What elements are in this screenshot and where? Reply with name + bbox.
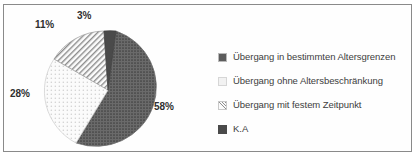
chart-legend: Übergang in bestimmten Altersgrenzen Übe…: [218, 45, 418, 153]
legend-label-0: Übergang in bestimmten Altersgrenzen: [233, 52, 395, 62]
legend-item-uebergang-festem-zeitpunkt: Übergang mit festem Zeitpunkt: [218, 93, 418, 117]
legend-item-uebergang-altersgrenzen: Übergang in bestimmten Altersgrenzen: [218, 45, 418, 69]
pie-svg: [38, 29, 178, 151]
pie-slices: [44, 31, 156, 147]
legend-label-2: Übergang mit festem Zeitpunkt: [233, 100, 361, 110]
pie-label-11: 11%: [35, 19, 54, 30]
legend-swatch-dark-dotted-icon: [218, 53, 227, 62]
legend-label-3: K.A: [233, 124, 248, 134]
pie-label-28: 28%: [10, 88, 30, 99]
pie-chart-area: 58% 28% 11% 3%: [4, 5, 209, 159]
legend-swatch-solid-icon: [218, 125, 227, 134]
chart-frame: 58% 28% 11% 3% Übergang in bestimmten Al…: [3, 4, 412, 152]
pie-graphic: [38, 29, 178, 151]
legend-swatch-hatch-icon: [218, 101, 227, 110]
legend-swatch-light-dotted-icon: [218, 77, 227, 86]
pie-label-3: 3%: [77, 10, 91, 21]
legend-item-ka: K.A: [218, 117, 418, 141]
pie-label-58: 58%: [154, 101, 174, 112]
legend-label-1: Übergang ohne Altersbeschränkung: [233, 76, 383, 86]
legend-item-uebergang-ohne-altersbeschraenkung: Übergang ohne Altersbeschränkung: [218, 69, 418, 93]
